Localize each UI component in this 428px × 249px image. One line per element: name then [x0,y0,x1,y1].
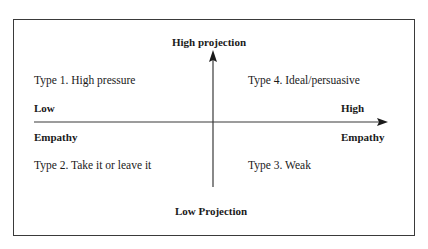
axis-label-empathy-left: Empathy [34,132,77,143]
quadrant-type-3: Type 3. Weak [248,160,311,172]
vertical-axis-projection [209,50,217,187]
axis-label-empathy-right: Empathy [341,132,384,143]
axis-label-high-projection: High projection [172,37,246,48]
axis-label-low: Low [34,103,55,114]
quadrant-type-2: Type 2. Take it or leave it [34,160,151,172]
horizontal-axis-empathy [34,118,388,126]
quadrant-type-1: Type 1. High pressure [34,75,135,87]
quadrant-type-4: Type 4. Ideal/persuasive [248,75,360,87]
axis-label-high: High [341,103,364,114]
axis-label-low-projection: Low Projection [175,206,247,217]
